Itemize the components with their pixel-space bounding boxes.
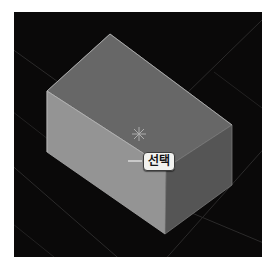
box-object[interactable] <box>47 34 232 234</box>
3d-viewport[interactable] <box>14 12 262 257</box>
grid-line-8 <box>14 220 54 257</box>
screenshot-root: 선택 <box>0 0 276 270</box>
grid-line-7 <box>214 72 262 108</box>
scene-canvas <box>14 12 262 257</box>
